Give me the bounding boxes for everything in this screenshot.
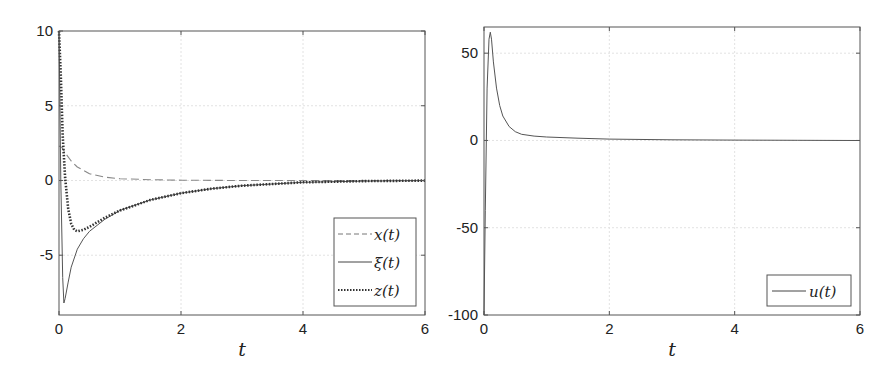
x-tick-label: 6: [421, 320, 429, 337]
x-tick-label: 0: [55, 320, 63, 337]
series-line: [484, 32, 860, 315]
right-grid: [484, 27, 860, 315]
x-tick-label: 0: [480, 320, 488, 337]
right-lines: [484, 32, 860, 315]
right-legend: u(t): [767, 275, 851, 306]
x-tick-label: 4: [299, 320, 307, 337]
legend-z-label: z(t): [373, 282, 400, 300]
x-tick-label: 4: [730, 320, 738, 337]
series-line: [59, 31, 425, 231]
series-line: [59, 146, 425, 180]
y-tick-label: 0: [45, 171, 53, 188]
legend-xi-label: ξ(t): [374, 254, 400, 272]
right-xlabel: t: [668, 338, 676, 360]
legend-x-label: x(t): [374, 226, 400, 244]
x-tick-label: 6: [856, 320, 864, 337]
legend-u-label: u(t): [809, 283, 837, 301]
y-tick-label: -100: [448, 306, 478, 323]
y-tick-label: 50: [461, 44, 478, 61]
y-tick-label: 10: [36, 22, 53, 39]
left-legend: x(t) ξ(t) z(t): [334, 218, 416, 306]
y-tick-label: 5: [45, 97, 53, 114]
y-tick-label: -5: [40, 246, 53, 263]
left-xlabel: t: [238, 338, 246, 360]
y-tick-label: -50: [456, 219, 478, 236]
x-tick-label: 2: [177, 320, 185, 337]
figure-canvas: 02461050-5 t x(t) ξ(t) z(t) 0246500-50-1…: [0, 0, 889, 379]
right-axes-frame: [484, 27, 860, 315]
left-plot: 02461050-5 t x(t) ξ(t) z(t): [36, 22, 429, 360]
x-tick-label: 2: [605, 320, 613, 337]
right-plot: 0246500-50-100 t u(t): [448, 27, 864, 360]
y-tick-label: 0: [470, 131, 478, 148]
